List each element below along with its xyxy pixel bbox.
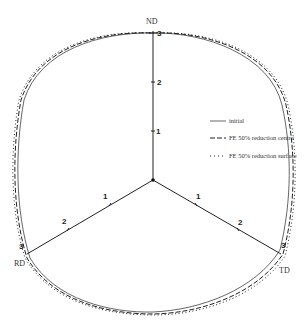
origin-point (151, 178, 155, 182)
nd-tick-3: 3 (157, 29, 162, 38)
rd-tick-2: 2 (62, 217, 67, 226)
rd-axis (27, 180, 153, 254)
nd-tick-2: 2 (157, 78, 162, 87)
td-tick-3: 3 (281, 241, 286, 250)
td-tick-2: 2 (238, 218, 243, 227)
series-fe-surface (13, 33, 295, 315)
legend-label-centre: FE 50% reduction centre (229, 134, 294, 141)
polar-chart: ND TD RD 1 2 3 1 2 3 1 2 3 initial FE 50… (0, 0, 308, 327)
legend-label-initial: initial (229, 117, 244, 124)
rd-tick-1: 1 (103, 192, 108, 201)
td-axis (153, 180, 281, 254)
rd-tick-3: 3 (19, 242, 24, 251)
legend-label-surface: FE 50% reduction surface (229, 152, 297, 159)
series-initial (18, 33, 289, 312)
legend: initial FE 50% reduction centre FE 50% r… (210, 117, 297, 159)
td-label: TD (279, 266, 290, 275)
td-tick-1: 1 (196, 192, 201, 201)
nd-tick-1: 1 (156, 127, 161, 136)
rd-label: RD (14, 259, 25, 268)
nd-label: ND (146, 17, 158, 26)
series-fe-centre (15, 33, 293, 314)
